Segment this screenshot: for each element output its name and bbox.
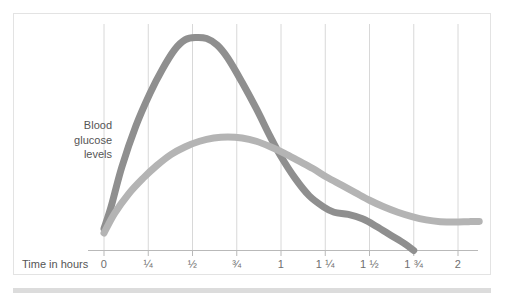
- x-tick-label: ¾: [232, 258, 241, 270]
- y-axis-label-line-1: Blood: [20, 118, 112, 133]
- y-axis-label: Blood glucose levels: [20, 118, 112, 162]
- y-axis-label-line-3: levels: [20, 147, 112, 162]
- x-axis-label: Time in hours: [22, 258, 88, 270]
- footer-bar: [13, 288, 491, 293]
- y-axis-label-line-2: glucose: [20, 133, 112, 148]
- x-tick-label: 1 ¼: [316, 258, 335, 270]
- x-tick-label: 0: [101, 258, 107, 270]
- series-group: [104, 37, 479, 250]
- series-line-slow-acting-curve: [104, 137, 479, 233]
- tickmarks-group: [104, 251, 458, 257]
- x-tick-label: 1 ½: [360, 258, 379, 270]
- x-tick-label: 1: [278, 258, 284, 270]
- x-tick-label: 1 ¾: [404, 258, 423, 270]
- x-tick-label: ½: [188, 258, 197, 270]
- chart-figure: Blood glucose levels Time in hours 0¼½¾1…: [0, 0, 506, 302]
- x-tick-label: ¼: [144, 258, 153, 270]
- x-tick-label: 2: [455, 258, 461, 270]
